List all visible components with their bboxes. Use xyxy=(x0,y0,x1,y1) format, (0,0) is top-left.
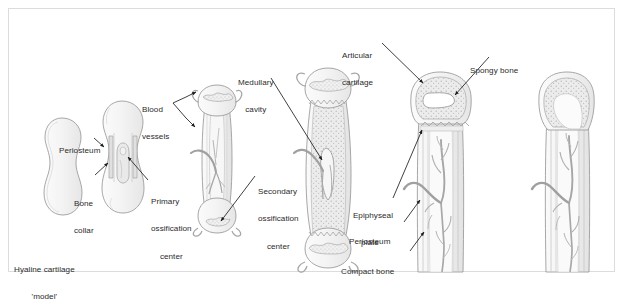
label-secondary-ossification-center: Secondary ossification center xyxy=(258,168,299,270)
label-line: Spongy bone xyxy=(470,66,518,75)
label-line: center xyxy=(151,252,192,261)
label-line: center xyxy=(258,242,299,251)
label-blood-vessels: Blood vessels xyxy=(142,86,169,160)
label-line: Primary xyxy=(151,197,192,206)
label-medullary-cavity: Medullary cavity xyxy=(238,59,274,133)
label-line: vessels xyxy=(142,132,169,141)
label-line: 'model' xyxy=(14,292,75,301)
label-line: Secondary xyxy=(258,187,299,196)
label-line: cartilage xyxy=(342,78,373,87)
stage-3-primary-ossification-center xyxy=(191,85,242,236)
leader-articular-cartilage xyxy=(382,43,423,83)
label-articular-cartilage: Articular cartilage xyxy=(342,32,373,106)
label-line: collar xyxy=(74,226,94,235)
label-spongy-bone: Spongy bone xyxy=(470,47,518,93)
label-line: ossification xyxy=(151,224,192,233)
label-hyaline-cartilage-model: Hyaline cartilage 'model' xyxy=(14,246,75,303)
label-periosteum-stage2: Periosteum xyxy=(59,127,100,173)
label-line: Bone xyxy=(74,199,94,208)
stage-6-mature-bone xyxy=(532,72,594,272)
label-line: Periosteum xyxy=(59,146,100,155)
stage-2-bone-collar-formation xyxy=(102,101,144,213)
label-line: Compact bone xyxy=(341,267,394,276)
label-primary-ossification-center: Primary ossification center xyxy=(151,178,192,280)
label-line: Blood xyxy=(142,105,169,114)
label-line: Medullary xyxy=(238,78,274,87)
label-line: Hyaline cartilage xyxy=(14,265,75,274)
label-line: ossification xyxy=(258,214,299,223)
label-line: Articular xyxy=(342,51,373,60)
label-line: cavity xyxy=(238,105,274,114)
label-bone-collar: Bone collar xyxy=(74,180,94,254)
label-line: Periosteum xyxy=(349,237,390,246)
stage-5-secondary-ossification-epiphyseal-plate xyxy=(404,72,471,272)
leader-blood-vessels-lower xyxy=(173,103,195,127)
label-compact-bone: Compact bone xyxy=(341,248,394,294)
